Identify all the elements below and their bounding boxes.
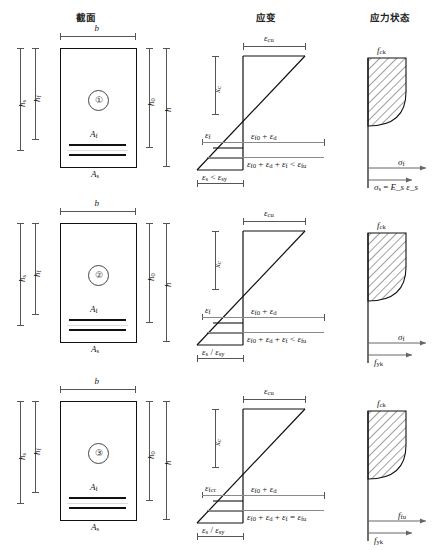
diagram-row-3: ③AfAsbhshfh0hεcuxcεfcrεf0 + εdεf0 + εd +… [0, 383, 440, 550]
steel-stress-label: fyk [374, 535, 383, 545]
column-header-section: 截面 [76, 10, 96, 24]
stress-diagram [0, 383, 440, 550]
concrete-stress-label: fck [377, 45, 386, 55]
column-header-stress: 应力状态 [370, 10, 410, 24]
column-header-strain: 应变 [256, 10, 276, 24]
diagram-row-2: ②AfAsbhshfh0hεcuxcεfεf0 + εdεf0 + εd + ε… [0, 205, 440, 385]
frp-stress-label: ffu [398, 510, 406, 520]
steel-stress-label: σs = E_s ε_s [374, 182, 418, 192]
steel-stress-label: fyk [374, 357, 383, 367]
frp-stress-label: σf [398, 332, 405, 342]
concrete-stress-label: fck [377, 220, 386, 230]
concrete-stress-label: fck [377, 398, 386, 408]
diagram-row-1: ①AfAsbhshfh0hεcuxcεfεf0 + εdεf0 + εd + ε… [0, 30, 440, 210]
frp-stress-label: σf [398, 157, 405, 167]
